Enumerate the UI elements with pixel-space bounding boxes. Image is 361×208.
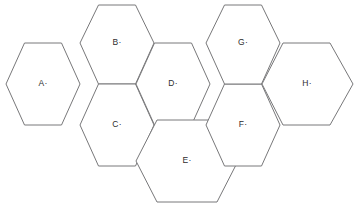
hexagon-label-d: D· [168,78,178,88]
hexagon-label-g: G· [238,37,248,47]
hexagon-label-e: E· [182,155,191,165]
hexagon-shapes-layer [6,5,353,202]
hexagon-label-a: A· [38,78,47,88]
hexagon-label-c: C· [112,119,122,129]
hexagon-diagram: A·B·C·D·E·F·G·H· [0,0,361,208]
hexagon-label-b: B· [112,37,121,47]
hexagon-label-h: H· [302,78,312,88]
hexagon-grid-canvas: A·B·C·D·E·F·G·H· [0,0,361,208]
hexagon-label-f: F· [239,119,248,129]
